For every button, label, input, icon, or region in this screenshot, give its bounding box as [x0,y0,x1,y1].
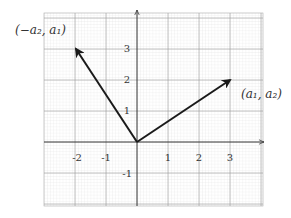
x-tick-label: -2 [72,152,82,163]
y-tick-label: -1 [122,168,132,179]
x-tick-label: 3 [227,152,233,163]
vector-a-label: (a₁, a₂) [241,87,282,101]
vector-perp-label: (−a₂, a₁) [15,23,66,37]
x-tick-label: 2 [196,152,202,163]
x-tick-label: -1 [101,152,111,163]
coordinate-plane: -2 -1 1 2 3 3 2 1 -1 (a₁, a₂) (−a₂, a₁) [0,0,291,218]
grid [44,13,263,206]
y-tick-label: 3 [124,43,130,54]
y-tick-label: 2 [124,74,130,85]
x-tick-label: 1 [165,152,171,163]
y-tick-label: 1 [124,105,130,116]
